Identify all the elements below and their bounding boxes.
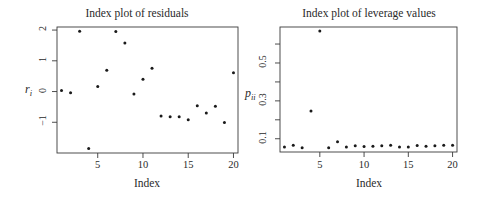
data-point (132, 92, 135, 95)
x-tick-label: 15 (403, 159, 414, 170)
leverage-y-axis-label: pii (245, 86, 256, 102)
data-point (60, 89, 63, 92)
data-point (336, 140, 339, 143)
y-tick-label: 0.1 (257, 125, 268, 149)
residuals-plot-panel: Index plot of residuals Index ri 5101520… (0, 0, 240, 203)
data-point (407, 146, 410, 149)
y-tick-label: 0.5 (257, 49, 268, 73)
data-point (160, 115, 163, 118)
data-point (433, 144, 436, 147)
data-point (169, 115, 172, 118)
data-point (196, 104, 199, 107)
data-point (345, 145, 348, 148)
data-point (301, 146, 304, 149)
data-point (214, 105, 217, 108)
residuals-plot-title: Index plot of residuals (85, 7, 188, 19)
data-point (425, 145, 428, 148)
data-point (389, 144, 392, 147)
x-tick-label: 10 (138, 159, 149, 170)
data-point (87, 147, 90, 150)
x-tick-label: 10 (359, 159, 370, 170)
residuals-y-axis-label: ri (25, 82, 32, 98)
leverage-x-axis-label: Index (356, 177, 382, 189)
data-point (96, 85, 99, 88)
data-point (292, 144, 295, 147)
x-tick-label: 20 (447, 159, 458, 170)
data-point (151, 67, 154, 70)
residuals-x-axis-label: Index (134, 177, 160, 189)
x-tick-label: 20 (228, 159, 239, 170)
data-point (205, 112, 208, 115)
leverage-plot-title: Index plot of leverage values (302, 7, 435, 19)
x-tick-label: 15 (183, 159, 194, 170)
y-tick-label: −1 (37, 109, 48, 133)
data-point (78, 30, 81, 33)
data-point (141, 78, 144, 81)
data-point (354, 144, 357, 147)
residuals-y-label-sub: i (30, 88, 32, 98)
data-point (187, 118, 190, 121)
data-point (363, 145, 366, 148)
data-point (318, 29, 321, 32)
leverage-plot-area (240, 0, 480, 203)
plot-frame (57, 27, 238, 153)
y-tick-label: 0.3 (257, 87, 268, 111)
data-point (114, 30, 117, 33)
data-point (123, 41, 126, 44)
data-point (178, 115, 181, 118)
data-point (380, 144, 383, 147)
y-tick-label: 1 (37, 47, 48, 71)
data-point (105, 69, 108, 72)
data-point (69, 91, 72, 94)
data-point (232, 71, 235, 74)
leverage-y-label-sub: ii (251, 92, 256, 102)
data-point (309, 109, 312, 112)
data-point (398, 146, 401, 149)
data-point (327, 146, 330, 149)
y-tick-label: 0 (37, 78, 48, 102)
data-point (451, 144, 454, 147)
data-point (371, 145, 374, 148)
x-tick-label: 5 (95, 159, 100, 170)
y-tick-label: 2 (37, 17, 48, 41)
data-point (442, 144, 445, 147)
leverage-plot-panel: Index plot of leverage values Index pii … (240, 0, 480, 203)
plot-frame (280, 27, 457, 152)
data-point (416, 144, 419, 147)
data-point (223, 121, 226, 124)
x-tick-label: 5 (317, 159, 322, 170)
data-point (283, 146, 286, 149)
